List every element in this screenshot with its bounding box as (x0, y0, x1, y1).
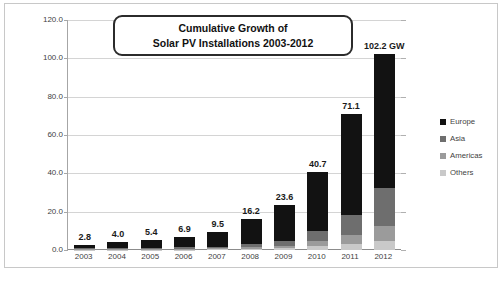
x-tick-label: 2011 (333, 252, 366, 261)
stacked-bar (74, 245, 95, 250)
x-tick-label: 2007 (200, 252, 233, 261)
stacked-bar (274, 205, 295, 250)
y-tick-label: 80.0 (19, 92, 63, 101)
bar-value-label: 23.6 (276, 192, 294, 202)
bar-value-label: 4.0 (112, 229, 125, 239)
x-tick-label: 2008 (233, 252, 266, 261)
x-tick-label: 2009 (267, 252, 300, 261)
legend-swatch (440, 119, 446, 125)
bar-value-label: 2.8 (78, 232, 91, 242)
y-tick-mark-right (401, 250, 406, 251)
legend-item: Europe (440, 113, 483, 130)
chart-title-line-2: Solar PV Installations 2003-2012 (153, 36, 314, 51)
bar-segment-europe (241, 219, 262, 244)
legend-swatch (440, 170, 446, 176)
bar-segment-asia (374, 188, 395, 226)
y-tick-label: 20.0 (19, 207, 63, 216)
legend-item: Americas (440, 147, 483, 164)
bar-segment-europe (307, 172, 328, 231)
stacked-bar (241, 219, 262, 250)
stacked-bar (341, 114, 362, 250)
x-tick-label: 2005 (134, 252, 167, 261)
y-tick-label: 120.0 (19, 15, 63, 24)
y-tick-mark-right (401, 97, 406, 98)
bar-segment-others (207, 249, 228, 250)
legend-item: Others (440, 164, 483, 181)
legend-label: Europe (450, 117, 475, 126)
bar-segment-europe (174, 237, 195, 247)
bar-value-label: 40.7 (309, 159, 327, 169)
legend-swatch (440, 153, 446, 159)
bar-column: 102.2 GW (368, 20, 401, 250)
legend-label: Americas (450, 151, 483, 160)
x-tick-label: 2003 (67, 252, 100, 261)
bar-value-label: 16.2 (242, 206, 260, 216)
y-tick-label: 60.0 (19, 130, 63, 139)
chart-legend: EuropeAsiaAmericasOthers (440, 113, 483, 181)
chart-title-box: Cumulative Growth of Solar PV Installati… (113, 15, 353, 56)
stacked-bar (307, 172, 328, 250)
bar-segment-asia (341, 215, 362, 235)
y-tick-mark (64, 250, 68, 251)
legend-label: Others (450, 168, 473, 177)
y-tick-mark-right (401, 58, 406, 59)
legend-item: Asia (440, 130, 483, 147)
bar-value-label: 71.1 (342, 101, 360, 111)
bar-segment-europe (207, 232, 228, 247)
bar-value-label: 6.9 (178, 224, 191, 234)
bar-segment-americas (341, 235, 362, 245)
y-tick-label: 0.0 (19, 245, 63, 254)
bar-segment-others (374, 241, 395, 250)
bar-segment-others (274, 248, 295, 250)
bar-value-label: 9.5 (212, 219, 225, 229)
x-tick-label: 2012 (367, 252, 400, 261)
bar-segment-asia (307, 231, 328, 241)
y-tick-label: 100.0 (19, 53, 63, 62)
bar-segment-europe (141, 240, 162, 248)
stacked-bar (207, 232, 228, 250)
y-axis-title: Cumulative Global Installed Capacity (GW… (0, 0, 6, 18)
bar-segment-others (307, 246, 328, 250)
y-tick-label: 40.0 (19, 168, 63, 177)
x-tick-label: 2004 (100, 252, 133, 261)
bar-segment-others (241, 249, 262, 250)
stacked-bar (374, 54, 395, 250)
stacked-bar (107, 242, 128, 250)
x-axis-ticks: 2003200420052006200720082009201020112012 (67, 252, 400, 261)
y-tick-mark-right (401, 212, 406, 213)
bar-segment-europe (374, 54, 395, 188)
stacked-bar (141, 240, 162, 250)
y-tick-mark-right (401, 20, 406, 21)
bar-value-label: 5.4 (145, 227, 158, 237)
legend-label: Asia (450, 134, 465, 143)
chart-title-line-1: Cumulative Growth of (178, 21, 287, 36)
stacked-bar (174, 237, 195, 250)
bar-column: 2.8 (68, 20, 101, 250)
x-tick-label: 2006 (167, 252, 200, 261)
bar-segment-europe (274, 205, 295, 241)
y-tick-mark-right (401, 173, 406, 174)
bar-segment-others (341, 244, 362, 250)
y-tick-mark-right (401, 135, 406, 136)
chart-page: Cumulative Global Installed Capacity (GW… (0, 0, 503, 287)
bar-value-label: 102.2 GW (364, 41, 405, 51)
figure-caption (30, 272, 485, 284)
bar-segment-europe (341, 114, 362, 215)
x-tick-label: 2010 (300, 252, 333, 261)
bar-segment-americas (374, 226, 395, 242)
legend-swatch (440, 136, 446, 142)
